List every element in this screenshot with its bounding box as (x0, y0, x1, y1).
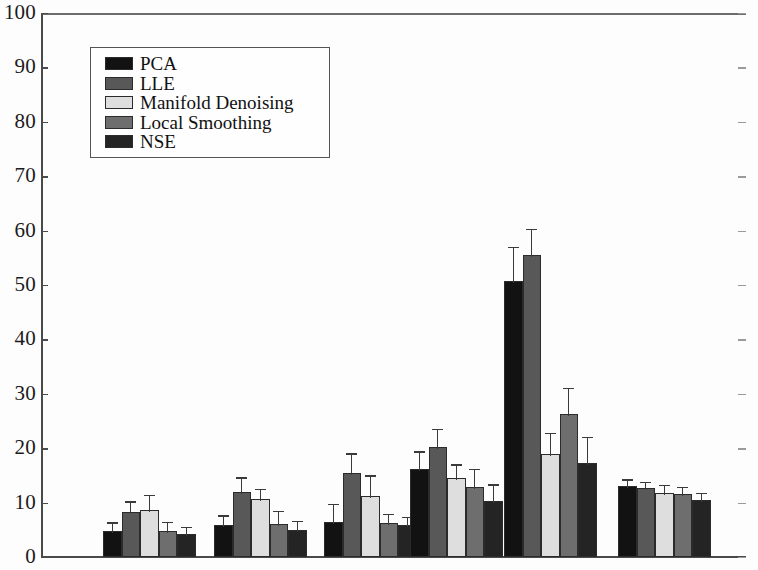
error-bar (437, 430, 438, 448)
bar (466, 487, 485, 557)
error-bar (513, 248, 514, 283)
bar-item (361, 473, 380, 558)
error-bar (664, 486, 665, 495)
error-bar (587, 438, 588, 464)
legend-item: Manifold Denoising (105, 93, 329, 113)
error-bar (130, 503, 131, 515)
bar (380, 523, 399, 557)
error-bar-cap (696, 493, 707, 494)
error-bar-cap (640, 482, 651, 483)
y-axis-label: 80 (15, 111, 36, 132)
bar (361, 496, 380, 557)
bar (324, 522, 343, 557)
error-bar (278, 512, 279, 526)
legend-swatch (105, 57, 133, 70)
bar (637, 488, 656, 557)
legend-item: PCA (105, 54, 329, 74)
bar (560, 414, 579, 557)
error-bar (370, 477, 371, 498)
error-bar (388, 515, 389, 525)
error-bar (333, 505, 334, 524)
bar (410, 469, 429, 557)
bar-item (618, 477, 637, 557)
bar (541, 454, 560, 557)
error-bar (645, 483, 646, 490)
bar-group (324, 13, 417, 557)
y-axis-tick (41, 557, 48, 558)
bar-item (177, 524, 196, 557)
bar (159, 531, 178, 557)
bar-item (447, 462, 466, 557)
bar (578, 463, 597, 557)
error-bar (241, 479, 242, 494)
error-bar-cap (107, 522, 118, 523)
error-bar-cap (255, 489, 266, 490)
bar (140, 510, 159, 557)
error-bar-cap (125, 501, 136, 502)
bar-item (484, 482, 503, 557)
y-axis-label: 100 (4, 2, 36, 23)
bar-item (578, 434, 597, 557)
bar-item (233, 475, 252, 557)
bar-item (655, 482, 674, 557)
bar (270, 524, 289, 557)
bar-item (429, 426, 448, 557)
bar-group (410, 13, 503, 557)
bar-item (504, 244, 523, 557)
error-bar (223, 517, 224, 528)
error-bar-cap (563, 388, 574, 389)
error-bar-cap (292, 521, 303, 522)
legend-label: NSE (140, 132, 176, 151)
bar-item (214, 513, 233, 557)
bar-item (560, 385, 579, 557)
error-bar-cap (346, 453, 357, 454)
bar-item (122, 499, 141, 557)
error-bar (419, 453, 420, 471)
bar-item (541, 430, 560, 557)
error-bar (474, 470, 475, 489)
bar (618, 486, 637, 557)
error-bar (407, 518, 408, 527)
error-bar-cap (488, 484, 499, 485)
bar-item (692, 490, 711, 557)
bar-group (504, 13, 597, 557)
bar (692, 500, 711, 557)
legend-label: Manifold Denoising (140, 93, 294, 112)
error-bar (351, 455, 352, 475)
error-bar (531, 230, 532, 257)
error-bar (186, 528, 187, 536)
error-bar-cap (677, 487, 688, 488)
error-bar-cap (432, 429, 443, 430)
bar-item (288, 518, 307, 557)
error-bar-cap (582, 437, 593, 438)
error-bar-cap (526, 229, 537, 230)
bar (343, 473, 362, 557)
bar (484, 501, 503, 557)
error-bar (112, 524, 113, 533)
bar (251, 499, 270, 557)
y-axis-label: 50 (15, 274, 36, 295)
bar (655, 493, 674, 557)
bar (429, 447, 448, 557)
bar-item (466, 466, 485, 557)
bar-item (523, 226, 542, 557)
error-bar-cap (469, 469, 480, 470)
error-bar-cap (545, 433, 556, 434)
bar-item (324, 501, 343, 557)
error-bar-cap (622, 479, 633, 480)
bar (674, 494, 693, 557)
bar-item (159, 519, 178, 557)
legend-label: LLE (140, 74, 175, 93)
y-axis-label: 60 (15, 220, 36, 241)
y-axis-label: 20 (15, 437, 36, 458)
bar-item (270, 508, 289, 557)
error-bar (627, 481, 628, 488)
legend-label: PCA (140, 54, 177, 73)
legend-swatch (105, 77, 133, 90)
error-bar (260, 490, 261, 501)
bar (103, 531, 122, 557)
bar-item (103, 520, 122, 557)
legend-item: LLE (105, 74, 329, 94)
error-bar-cap (659, 485, 670, 486)
bar (288, 530, 307, 557)
